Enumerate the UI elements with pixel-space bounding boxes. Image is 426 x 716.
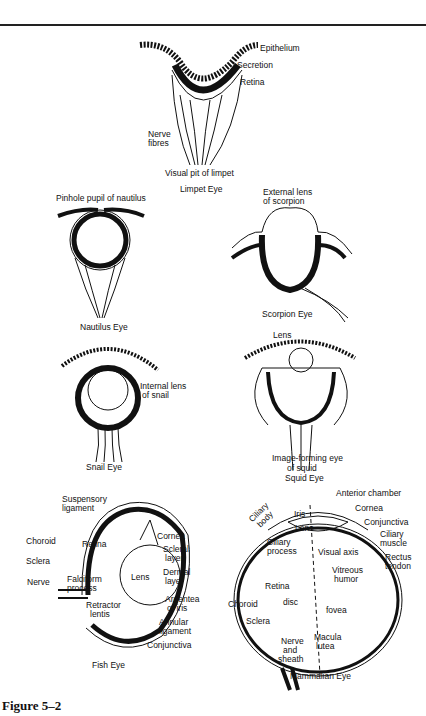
label-lens-fish: Lens xyxy=(131,573,149,582)
label-iris: Iris xyxy=(294,510,305,519)
label-fovea: fovea xyxy=(326,606,347,615)
nautilus-title: Nautilus Eye xyxy=(80,322,128,332)
label-cornea-fish: Cornea xyxy=(157,532,185,541)
squid-caption-2: of squid xyxy=(287,463,317,473)
label-lentis: lentis xyxy=(90,610,110,619)
scorpion-title: Scorpion Eye xyxy=(262,309,313,319)
label-tendon: tendon xyxy=(385,562,411,571)
nautilus-eye-drawing xyxy=(58,210,144,318)
scorpion-eye-drawing xyxy=(232,208,352,322)
label-annular-ligament: ligament xyxy=(159,627,191,636)
label-anterior-chamber: Anterior chamber xyxy=(336,489,401,498)
label-choroid-fish: Choroid xyxy=(26,537,56,546)
snail-eye-drawing xyxy=(62,349,158,462)
mammalian-title: Mammalian Eye xyxy=(290,671,351,681)
label-dermal-layer: layer xyxy=(165,577,183,586)
label-retina: Retina xyxy=(240,78,265,87)
label-pinhole-pupil: Pinhole pupil of nautilus xyxy=(56,194,146,203)
label-sclera-mammal: Sclera xyxy=(246,617,270,626)
label-humor: humor xyxy=(334,575,358,584)
limpet-caption: Visual pit of limpet xyxy=(165,168,234,178)
label-scleral-layer: layer xyxy=(165,554,183,563)
label-ciliary-process-2: process xyxy=(267,547,297,556)
label-ciliary-muscle-2: muscle xyxy=(380,539,407,548)
squid-caption-1: Image-forming eye xyxy=(272,453,343,463)
limpet-title: Limpet Eye xyxy=(180,184,223,194)
label-visual-axis: Visual axis xyxy=(318,548,358,557)
label-choroid-mammal: Choroid xyxy=(228,600,258,609)
label-cornea-mammal: Cornea xyxy=(355,504,383,513)
eye-diagrams xyxy=(0,0,426,716)
label-fibres: fibres xyxy=(148,139,169,148)
label-lens-squid: Lens xyxy=(273,331,291,340)
fish-title: Fish Eye xyxy=(92,660,125,670)
label-of-snail: of snail xyxy=(142,391,169,400)
label-conjunctiva-fish: Conjunctiva xyxy=(147,641,191,650)
label-nerve-fish: Nerve xyxy=(27,578,50,587)
label-lutea: lutea xyxy=(316,642,334,651)
label-lens-mammal: Lens xyxy=(295,524,313,533)
label-sheath: sheath xyxy=(278,655,304,664)
label-disc: disc xyxy=(283,598,298,607)
squid-title: Squid Eye xyxy=(285,473,324,483)
label-conjunctiva-mammal: Conjunctiva xyxy=(364,518,408,527)
snail-title: Snail Eye xyxy=(86,462,122,472)
label-process: process xyxy=(67,584,97,593)
label-retina-mammal: Retina xyxy=(265,582,290,591)
mammalian-eye-drawing xyxy=(234,505,402,690)
label-secretion: Secretion xyxy=(237,61,273,70)
label-of-iris: of iris xyxy=(167,604,187,613)
label-epithelium: Epithelium xyxy=(260,44,300,53)
label-ligament: ligament xyxy=(62,504,94,513)
label-of-scorpion: of scorpion xyxy=(263,197,305,206)
label-sclera-fish: Sclera xyxy=(26,557,50,566)
squid-eye-drawing xyxy=(245,342,355,471)
figure-label: Figure 5–2 xyxy=(2,698,61,714)
label-retina-fish: Retina xyxy=(82,540,107,549)
